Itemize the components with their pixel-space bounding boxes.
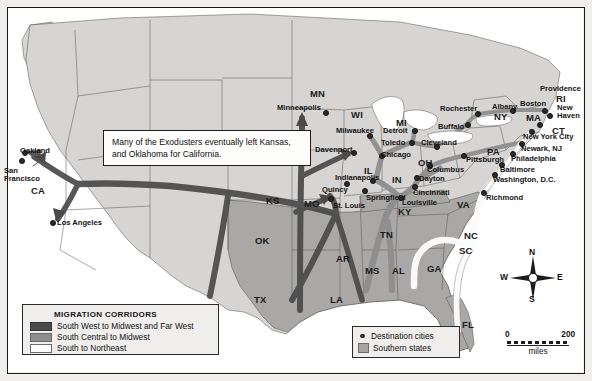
city-label: Davenport: [315, 146, 353, 154]
scale-unit: miles: [505, 347, 571, 356]
city-label: Richmond: [486, 194, 523, 202]
legend-item-southwest: South West to Midwest and Far West: [30, 321, 212, 332]
legend-title: MIGRATION CORRIDORS: [54, 310, 212, 319]
key-item-destination-cities: Destination cities: [358, 330, 454, 342]
city-label: Buffalo: [438, 123, 464, 131]
state-label-al: AL: [392, 266, 405, 276]
map-key-legend: Destination cities Southern states: [352, 326, 460, 358]
scale-bar-graphic: [507, 341, 569, 344]
legend-item-south-northeast: South to Northeast: [30, 343, 212, 354]
city-label: Indianapolis: [335, 174, 379, 182]
scale-max: 200: [561, 330, 575, 339]
city-label: Philadelphia: [511, 155, 556, 163]
state-label-ok: OK: [255, 236, 270, 246]
legend-label-southwest: South West to Midwest and Far West: [57, 321, 194, 331]
city-label: Washington, D.C.: [493, 176, 556, 184]
state-label-nc: NC: [464, 231, 478, 241]
city-label: Quincy: [322, 186, 348, 194]
callout-text: Many of the Exodusters eventually left K…: [112, 136, 302, 161]
state-label-ms: MS: [365, 266, 380, 276]
state-label-ny: NY: [494, 112, 508, 122]
legend-swatch-white: [30, 344, 52, 353]
southern-states-swatch-icon: [358, 343, 369, 353]
state-label-fl: FL: [462, 320, 474, 330]
city-label: San Francisco: [4, 167, 40, 183]
callout-box: Many of the Exodusters eventually left K…: [103, 130, 311, 166]
compass-label-north: N: [529, 247, 535, 257]
city-label: Louisville: [402, 199, 437, 207]
state-label-wi: WI: [351, 110, 363, 120]
legend-label-south-northeast: South to Northeast: [57, 343, 126, 353]
city-label: Columbus: [427, 166, 464, 174]
legend-swatch-dark: [30, 322, 52, 331]
city-label: Boston: [520, 100, 546, 108]
city-label: St. Louis: [333, 202, 365, 210]
state-label-in: IN: [392, 175, 402, 185]
compass-label-south: S: [529, 294, 535, 304]
city-label: Cincinnati: [413, 189, 450, 197]
state-label-ks: KS: [266, 196, 280, 206]
city-label: New Haven: [557, 104, 580, 120]
city-label: New York City: [523, 133, 573, 141]
city-label: Oakland: [20, 147, 50, 155]
city-label: Albany: [492, 103, 517, 111]
state-label-tn: TN: [380, 230, 393, 240]
city-label: Los Angeles: [57, 219, 102, 227]
city-label: Chicago: [381, 151, 411, 159]
city-label: Rochester: [440, 105, 477, 113]
state-label-ca: CA: [31, 186, 45, 196]
state-label-sc: SC: [459, 246, 473, 256]
key-label-destination-cities: Destination cities: [371, 331, 434, 341]
state-label-mn: MN: [310, 89, 325, 99]
city-label: Toledo: [381, 139, 405, 147]
state-label-ar: AR: [336, 254, 350, 264]
compass-label-west: W: [500, 272, 508, 282]
compass-rose: N S W E: [502, 250, 564, 306]
city-label: Minneapolis: [277, 104, 321, 112]
city-label: Newark, NJ: [521, 145, 562, 153]
state-label-va: VA: [457, 200, 470, 210]
city-label: Baltimore: [500, 166, 535, 174]
state-label-la: LA: [330, 295, 343, 305]
legend-item-south-central: South Central to Midwest: [30, 332, 212, 343]
city-label: Milwaukee: [336, 127, 374, 135]
legend-swatch-mid: [30, 333, 52, 342]
city-label: Pittsburgh: [466, 156, 504, 164]
destination-city-dot-icon: [358, 334, 367, 339]
state-label-ky: KY: [398, 207, 412, 217]
map-figure: CAKSOKTXLAARMOIAMNWIILMIINOHKYTNMSALGAFL…: [0, 0, 592, 381]
scale-min: 0: [505, 330, 510, 339]
state-label-mo: MO: [304, 199, 320, 209]
compass-label-east: E: [557, 272, 563, 282]
city-label: Dayton: [419, 175, 445, 183]
key-label-southern-states: Southern states: [373, 343, 431, 353]
scale-bar-rule: [507, 345, 569, 346]
key-item-southern-states: Southern states: [358, 342, 454, 354]
migration-corridors-legend: MIGRATION CORRIDORS South West to Midwes…: [22, 304, 219, 355]
state-label-tx: TX: [254, 295, 267, 305]
city-label: Cleveland: [421, 139, 457, 147]
city-label: Detroit: [383, 127, 407, 135]
scale-bar: 0 200 miles: [505, 330, 575, 360]
state-label-ga: GA: [427, 264, 442, 274]
city-label: Providence: [540, 85, 581, 93]
legend-label-south-central: South Central to Midwest: [57, 332, 150, 342]
